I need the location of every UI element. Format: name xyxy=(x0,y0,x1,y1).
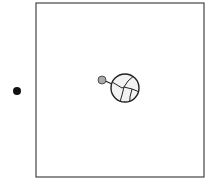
large-node xyxy=(111,74,139,102)
outside-dot xyxy=(13,87,21,95)
diagram-canvas xyxy=(0,0,211,184)
small-node xyxy=(98,76,106,84)
